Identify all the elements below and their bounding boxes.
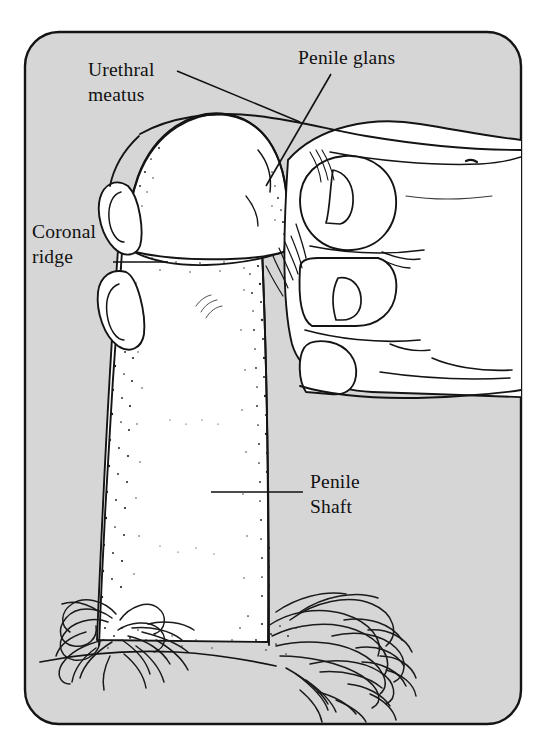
figure-root: Urethral meatus Penile glans Coronal rid…: [0, 0, 546, 742]
finger-index: [300, 258, 397, 326]
anatomical-illustration: Urethral meatus Penile glans Coronal rid…: [0, 0, 546, 742]
thumb: [300, 156, 396, 250]
label-penile-glans-text: Penile glans: [298, 47, 395, 68]
